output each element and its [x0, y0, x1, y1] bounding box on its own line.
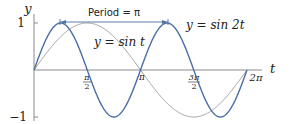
- x-tick-2pi: 2π: [249, 72, 263, 83]
- y-tick-label-1: 1: [17, 16, 25, 30]
- sine-period-chart: y t 1 −1 π 2 π 3π 2 2π Period = π y = si…: [0, 0, 290, 124]
- sin-t-label: y = sin t: [93, 35, 145, 49]
- y-tick-label-neg-1: −1: [9, 110, 27, 124]
- svg-text:2: 2: [84, 82, 89, 91]
- sin-2t-label: y = sin 2t: [185, 18, 245, 32]
- t-axis-label: t: [270, 61, 276, 76]
- y-axis-label: y: [23, 1, 32, 16]
- period-label: Period = π: [88, 7, 140, 18]
- svg-text:2: 2: [191, 82, 196, 91]
- period-arrow: [60, 19, 168, 25]
